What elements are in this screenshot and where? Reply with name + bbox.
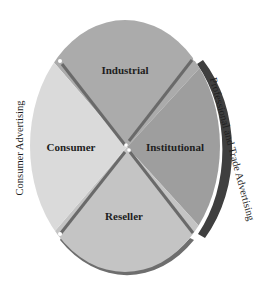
label-institutional: Institutional [146, 141, 204, 153]
label-consumer: Consumer [47, 141, 96, 153]
consumer-advertising-label: Consumer Advertising [14, 100, 25, 196]
label-industrial: Industrial [101, 64, 148, 76]
market-segments-diagram: Industrial Institutional Reseller Consum… [0, 0, 262, 295]
label-reseller: Reseller [105, 210, 143, 222]
